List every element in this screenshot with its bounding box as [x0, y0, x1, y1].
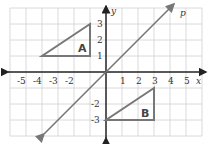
- svg-text:-4: -4: [33, 76, 42, 86]
- svg-text:2: 2: [97, 35, 103, 45]
- svg-text:5: 5: [184, 76, 190, 86]
- svg-text:1: 1: [97, 51, 103, 61]
- svg-text:-2: -2: [65, 76, 74, 86]
- svg-text:2: 2: [136, 76, 142, 86]
- svg-text:-5: -5: [17, 76, 26, 86]
- triangle-b-label: B: [141, 107, 149, 120]
- svg-text:3: 3: [152, 76, 158, 86]
- svg-text:-3: -3: [49, 76, 58, 86]
- x-tick-labels: -5 -4 -3 -2 1 2 3 4 5: [17, 76, 190, 86]
- y-axis-label: y: [110, 6, 117, 16]
- line-p-label: p: [180, 8, 186, 18]
- coordinate-plane: A B p y x -5 -4 -3 -2 1 2 3 4 5 3 2 1 -2…: [0, 0, 219, 144]
- svg-text:-2: -2: [91, 99, 100, 109]
- svg-text:3: 3: [97, 19, 103, 29]
- svg-text:4: 4: [168, 76, 174, 86]
- x-axis-label: x: [196, 76, 201, 86]
- triangle-a-label: A: [78, 42, 87, 55]
- svg-text:-3: -3: [91, 115, 100, 125]
- svg-text:1: 1: [120, 76, 126, 86]
